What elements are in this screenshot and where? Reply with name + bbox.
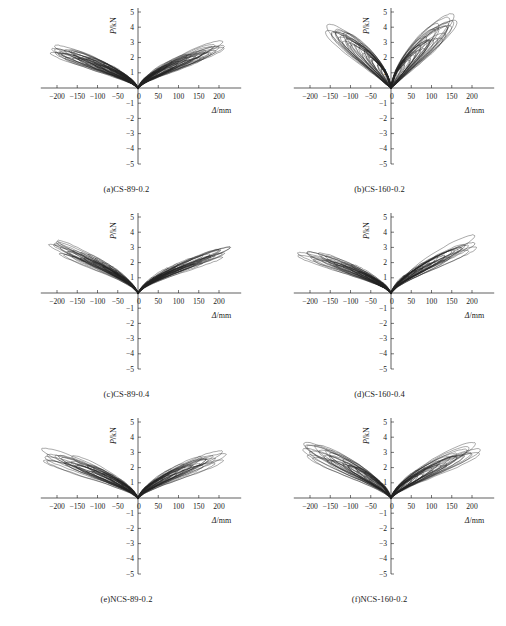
x-tick-label: 150 (446, 502, 458, 511)
x-tick-label: −100 (343, 92, 359, 101)
y-tick-label: 4 (383, 433, 387, 442)
x-tick-label: −50 (365, 297, 377, 306)
x-axis-label: Δ/mm (464, 516, 485, 525)
y-tick-label: 2 (130, 53, 134, 62)
plot-area-a: −200−150−100−50501001502000−5−4−3−2−1123… (0, 0, 253, 176)
y-tick-label: 5 (383, 8, 387, 17)
x-axis-label: Δ/mm (211, 311, 232, 320)
x-tick-label-zero: 0 (390, 502, 394, 511)
y-tick-label: −2 (379, 524, 387, 533)
panel-d: −200−150−100−50501001502000−5−4−3−2−1123… (253, 205, 506, 410)
y-tick-label: −1 (379, 99, 387, 108)
y-tick-label: −4 (379, 144, 387, 153)
y-tick-label: 4 (383, 228, 387, 237)
x-tick-label: −50 (112, 92, 124, 101)
x-tick-label: 100 (173, 502, 185, 511)
y-tick-label: 3 (383, 38, 387, 47)
x-tick-label-zero: 0 (137, 502, 141, 511)
x-tick-label: −200 (302, 502, 318, 511)
x-tick-label: −100 (343, 502, 359, 511)
x-tick-label: 200 (213, 92, 225, 101)
y-tick-label: −5 (126, 160, 134, 169)
x-tick-label: 100 (173, 92, 185, 101)
x-tick-label-zero: 0 (137, 92, 141, 101)
y-tick-label: −3 (126, 334, 134, 343)
x-tick-label: −200 (49, 92, 65, 101)
y-tick-label: −3 (379, 334, 387, 343)
y-tick-label: −2 (379, 319, 387, 328)
x-tick-label: 200 (213, 502, 225, 511)
y-tick-label: −4 (126, 349, 134, 358)
panel-caption-d: (d)CS-160-0.4 (253, 389, 506, 399)
panel-caption-e: (e)NCS-89-0.2 (0, 594, 253, 604)
y-tick-label: −1 (126, 304, 134, 313)
x-tick-label-zero: 0 (390, 92, 394, 101)
y-tick-label: 4 (130, 433, 134, 442)
y-tick-label: 2 (130, 258, 134, 267)
x-tick-label: −100 (90, 297, 106, 306)
panel-c: −200−150−100−50501001502000−5−4−3−2−1123… (0, 205, 253, 410)
x-tick-label: 100 (426, 502, 438, 511)
y-tick-label: 3 (130, 38, 134, 47)
x-tick-label: 50 (154, 92, 162, 101)
y-tick-label: −3 (126, 539, 134, 548)
x-tick-label: 100 (426, 92, 438, 101)
y-axis-label: P/kN (362, 17, 371, 35)
y-tick-label: 5 (383, 418, 387, 427)
y-tick-label: −5 (126, 365, 134, 374)
x-tick-label: −50 (112, 502, 124, 511)
y-tick-label: −3 (379, 129, 387, 138)
hysteresis-curves-f (303, 442, 480, 498)
panel-caption-b: (b)CS-160-0.2 (253, 184, 506, 194)
y-tick-label: 5 (130, 8, 134, 17)
panel-e: −200−150−100−50501001502000−5−4−3−2−1123… (0, 410, 253, 626)
x-tick-label: 50 (154, 297, 162, 306)
x-tick-label: −100 (90, 92, 106, 101)
y-tick-label: −2 (126, 114, 134, 123)
y-tick-label: −2 (379, 114, 387, 123)
y-tick-label: 2 (383, 258, 387, 267)
panel-caption-c: (c)CS-89-0.4 (0, 389, 253, 399)
y-tick-label: 3 (383, 243, 387, 252)
x-tick-label: −100 (343, 297, 359, 306)
y-tick-label: 3 (130, 448, 134, 457)
panel-f: −200−150−100−50501001502000−5−4−3−2−1123… (253, 410, 506, 626)
y-tick-label: −2 (126, 319, 134, 328)
y-tick-label: −1 (379, 509, 387, 518)
y-tick-label: 1 (383, 273, 387, 282)
plot-area-b: −200−150−100−50501001502000−5−4−3−2−1123… (253, 0, 506, 176)
x-tick-label: −200 (49, 297, 65, 306)
y-tick-label: −5 (379, 570, 387, 579)
hysteresis-curves-d (298, 235, 477, 294)
y-tick-label: −5 (126, 570, 134, 579)
x-axis-label: Δ/mm (464, 311, 485, 320)
x-tick-label: −200 (302, 92, 318, 101)
y-tick-label: 1 (130, 478, 134, 487)
y-tick-label: 4 (130, 228, 134, 237)
y-tick-label: 3 (130, 243, 134, 252)
panel-b: −200−150−100−50501001502000−5−4−3−2−1123… (253, 0, 506, 205)
y-tick-label: 5 (383, 213, 387, 222)
y-tick-label: −3 (379, 539, 387, 548)
x-tick-label: −50 (112, 297, 124, 306)
x-tick-label: 50 (407, 297, 415, 306)
panel-caption-f: (f)NCS-160-0.2 (253, 594, 506, 604)
x-tick-label: 50 (407, 92, 415, 101)
y-tick-label: 3 (383, 448, 387, 457)
y-tick-label: −4 (379, 554, 387, 563)
panel-caption-a: (a)CS-89-0.2 (0, 184, 253, 194)
x-tick-label: −200 (49, 502, 65, 511)
hysteresis-figure: −200−150−100−50501001502000−5−4−3−2−1123… (0, 0, 506, 626)
plot-area-c: −200−150−100−50501001502000−5−4−3−2−1123… (0, 205, 253, 381)
y-tick-label: −1 (379, 304, 387, 313)
x-tick-label: 200 (213, 297, 225, 306)
x-tick-label: 50 (154, 502, 162, 511)
x-tick-label-zero: 0 (137, 297, 141, 306)
x-tick-label: 200 (466, 502, 478, 511)
x-tick-label: −150 (69, 297, 85, 306)
x-tick-label: −150 (69, 502, 85, 511)
x-axis-label: Δ/mm (211, 516, 232, 525)
y-axis-label: P/kN (109, 222, 118, 240)
plot-area-d: −200−150−100−50501001502000−5−4−3−2−1123… (253, 205, 506, 381)
x-tick-label: −50 (365, 92, 377, 101)
